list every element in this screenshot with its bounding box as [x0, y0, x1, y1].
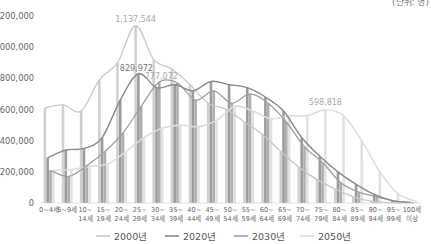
x-tick-label: 30~ — [151, 206, 165, 214]
bar-2000년 — [243, 122, 246, 203]
x-tick-label: 5~9세 — [57, 205, 77, 214]
legend-label: 2000년 — [114, 231, 147, 242]
x-tick-label: 80~ — [332, 206, 346, 214]
bar-2000년 — [261, 134, 264, 203]
bar-2050년 — [197, 127, 200, 203]
bar-2050년 — [324, 110, 327, 203]
bar-2050년 — [70, 169, 73, 203]
data-label: 1,137,544 — [115, 15, 156, 24]
bar-2020년 — [246, 88, 249, 203]
x-tick-label: 95~ — [387, 206, 401, 214]
bar-2050년 — [342, 116, 345, 203]
bar-2030년 — [158, 82, 161, 203]
bar-2050년 — [179, 125, 182, 203]
bar-2030년 — [67, 177, 70, 203]
data-label: 777,072 — [145, 72, 178, 81]
x-tick-label: 이상 — [406, 214, 418, 223]
bar-2000년 — [279, 152, 282, 203]
bar-2030년 — [339, 183, 342, 203]
x-tick-label: 94세 — [368, 214, 382, 223]
x-tick-label: 49세 — [205, 214, 219, 223]
x-tick-label: 70~ — [296, 206, 310, 214]
bar-2050년 — [143, 138, 146, 203]
x-tick-label: 54세 — [223, 214, 237, 223]
bar-2030년 — [285, 122, 288, 203]
bar-2030년 — [303, 147, 306, 203]
bar-2000년 — [207, 103, 210, 203]
bar-2050년 — [161, 128, 164, 203]
data-label: 598,818 — [309, 98, 342, 107]
bar-2000년 — [171, 69, 174, 203]
bar-2030년 — [49, 170, 52, 203]
bar-2000년 — [44, 108, 47, 203]
x-tick-label: 64세 — [260, 214, 274, 223]
bar-2050년 — [270, 119, 273, 203]
y-tick-label: 200,000 — [0, 167, 34, 177]
bar-2030년 — [194, 100, 197, 203]
bar-2030년 — [122, 133, 125, 203]
x-tick-label: 34세 — [151, 214, 165, 223]
bar-2000년 — [225, 110, 228, 204]
x-tick-label: 20~ — [115, 206, 129, 214]
bar-2020년 — [137, 74, 140, 203]
bar-2000년 — [316, 180, 319, 203]
x-tick-label: 100세 — [403, 205, 422, 214]
x-tick-label: 14세 — [78, 214, 92, 223]
x-tick-label: 35~ — [169, 206, 183, 214]
y-tick-label: 1,000,000 — [0, 42, 34, 52]
bar-2020년 — [155, 88, 158, 203]
y-tick-label: 800,000 — [0, 73, 34, 83]
bar-2000년 — [189, 85, 192, 203]
x-tick-label: 44세 — [187, 214, 201, 223]
bar-2030년 — [104, 152, 107, 203]
y-tick-label: 600,000 — [0, 105, 34, 115]
bar-2020년 — [119, 100, 122, 203]
x-tick-label: 24세 — [114, 214, 128, 223]
bar-2000년 — [62, 105, 65, 203]
x-tick-label: 15~ — [97, 206, 111, 214]
bar-2030년 — [212, 91, 215, 203]
bar-2020년 — [264, 97, 267, 203]
bar-2050년 — [125, 152, 128, 203]
bar-2050년 — [106, 164, 109, 203]
x-tick-label: 79세 — [314, 214, 328, 223]
x-tick-label: 90~ — [369, 206, 383, 214]
bar-2050년 — [306, 116, 309, 203]
x-tick-label: 10~ — [78, 206, 92, 214]
x-tick-label: 59세 — [241, 214, 255, 223]
bar-2020년 — [210, 81, 213, 203]
x-tick-label: 19세 — [96, 214, 110, 223]
bar-2050년 — [233, 106, 236, 203]
bar-2000년 — [334, 189, 337, 203]
x-tick-label: 45~ — [205, 206, 219, 214]
x-tick-label: 84세 — [332, 214, 346, 223]
bar-2020년 — [192, 91, 195, 203]
bar-2030년 — [176, 83, 179, 203]
bar-2030년 — [140, 106, 143, 203]
x-tick-label: 0~4세 — [39, 205, 59, 214]
x-tick-label: 60~ — [260, 206, 274, 214]
bar-2050년 — [215, 120, 218, 203]
bar-2020년 — [173, 85, 176, 203]
bar-2050년 — [252, 111, 255, 203]
y-tick-label: 0 — [29, 198, 34, 208]
bar-2050년 — [52, 170, 55, 203]
bar-2050년 — [88, 166, 91, 203]
bar-2000년 — [116, 63, 119, 203]
legend-label: 2030년 — [252, 231, 285, 242]
x-tick-label: 75~ — [314, 206, 328, 214]
x-tick-label: 39세 — [169, 214, 183, 223]
y-tick-label: 1,200,000 — [0, 11, 34, 21]
x-tick-label: 74세 — [296, 214, 310, 223]
x-tick-label: 40~ — [187, 206, 201, 214]
legend-label: 2050년 — [318, 231, 351, 242]
bar-2020년 — [355, 184, 358, 203]
bar-2030년 — [85, 166, 88, 203]
y-tick-label: 400,000 — [0, 136, 34, 146]
x-tick-label: 29세 — [133, 214, 147, 223]
x-tick-label: 89세 — [350, 214, 364, 223]
bar-2020년 — [337, 172, 340, 203]
bar-2000년 — [80, 111, 83, 203]
bar-2020년 — [282, 111, 285, 203]
bar-2000년 — [298, 167, 301, 203]
